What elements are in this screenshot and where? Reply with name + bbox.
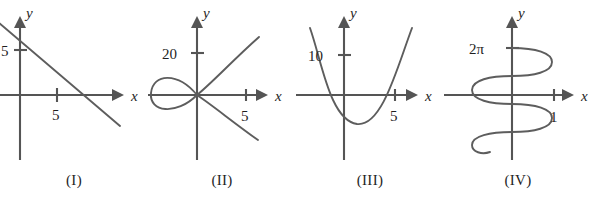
curve-branch-lower	[197, 95, 258, 140]
panel-4-caption: (IV)	[444, 172, 592, 189]
panel-3: x y 10 5 (III)	[296, 0, 444, 205]
x-axis-arrow	[562, 89, 574, 101]
x-axis-label: x	[424, 88, 432, 104]
y-axis-label: y	[348, 5, 357, 21]
x-axis-arrow	[406, 89, 418, 101]
y-tick-label: 2π	[469, 41, 485, 57]
panel-1-caption: (I)	[0, 172, 148, 189]
four-panel-graph-figure: x y 5 5 (I) x y 20 5	[0, 0, 592, 205]
y-tick-label: 20	[162, 46, 177, 62]
y-tick-label: 5	[1, 43, 9, 59]
curve-loop	[151, 78, 197, 109]
y-axis-label: y	[24, 5, 33, 21]
panel-2-graph: x y 20 5	[148, 0, 296, 172]
y-axis-label: y	[201, 5, 210, 21]
x-axis-label: x	[130, 88, 138, 104]
x-tick-label: 1	[550, 109, 558, 125]
x-tick-label: 5	[390, 108, 398, 124]
y-axis-arrow	[14, 16, 26, 28]
panel-4-graph: x y 2π 1	[444, 0, 592, 172]
y-axis-arrow	[506, 16, 518, 28]
y-axis-arrow	[338, 16, 350, 28]
panel-3-caption: (III)	[296, 172, 444, 189]
panel-1: x y 5 5 (I)	[0, 0, 148, 205]
x-tick-label: 5	[52, 107, 60, 123]
y-tick-label: 10	[308, 48, 323, 64]
curve-branch-upper	[197, 37, 259, 95]
x-axis-arrow	[112, 89, 124, 101]
panel-3-graph: x y 10 5	[296, 0, 444, 172]
panel-2-caption: (II)	[148, 172, 296, 189]
y-axis-label: y	[516, 5, 525, 21]
curve-line	[0, 22, 120, 126]
x-tick-label: 5	[241, 108, 249, 124]
y-axis-arrow	[191, 16, 203, 28]
x-axis-label: x	[580, 88, 588, 104]
x-axis-arrow	[256, 89, 268, 101]
x-axis-label: x	[274, 88, 282, 104]
panel-1-graph: x y 5 5	[0, 0, 148, 172]
panel-2: x y 20 5 (II)	[148, 0, 296, 205]
panel-4: x y 2π 1 (IV)	[444, 0, 592, 205]
